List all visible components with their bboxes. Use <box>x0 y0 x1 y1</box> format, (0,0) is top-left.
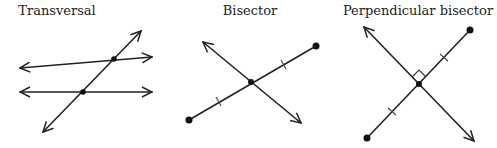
endpoint-left <box>186 117 193 124</box>
endpoint-top-right <box>467 27 474 34</box>
endpoint-right <box>313 43 320 50</box>
intersection-point-bottom <box>80 89 86 95</box>
parallel-line-top <box>20 57 152 68</box>
bisector-diagram <box>186 42 320 124</box>
geometry-diagrams <box>0 0 497 148</box>
right-angle-marker <box>412 70 426 77</box>
transversal-diagram <box>20 31 152 132</box>
transversal-line <box>43 31 141 132</box>
intersection-point-top <box>111 56 117 62</box>
midpoint <box>416 81 422 87</box>
midpoint <box>248 79 254 85</box>
perpendicular-bisector-diagram <box>364 27 475 142</box>
endpoint-bottom-left <box>364 135 371 142</box>
